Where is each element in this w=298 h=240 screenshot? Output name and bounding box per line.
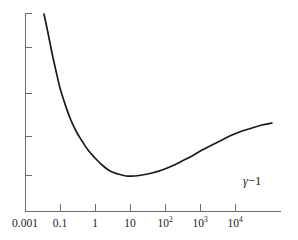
x-tick-label-5: 103	[192, 218, 207, 230]
y-axis-ticks	[25, 13, 32, 175]
chart-figure: 0.0010.1110102103104 γ−1	[0, 0, 298, 240]
x-axis-ticks	[25, 204, 235, 211]
x-axis-annotation-gamma-minus-one: γ−1	[243, 175, 261, 188]
x-tick-label-4: 102	[157, 218, 172, 230]
x-tick-label-3: 10	[124, 218, 136, 230]
data-series-group	[44, 14, 272, 176]
plot-canvas	[0, 0, 298, 240]
x-tick-label-1: 0.1	[53, 218, 67, 230]
data-curve	[44, 14, 272, 176]
x-tick-label-6: 104	[227, 218, 242, 230]
x-tick-label-2: 1	[92, 218, 98, 230]
x-tick-label-0: 0.001	[12, 218, 38, 230]
